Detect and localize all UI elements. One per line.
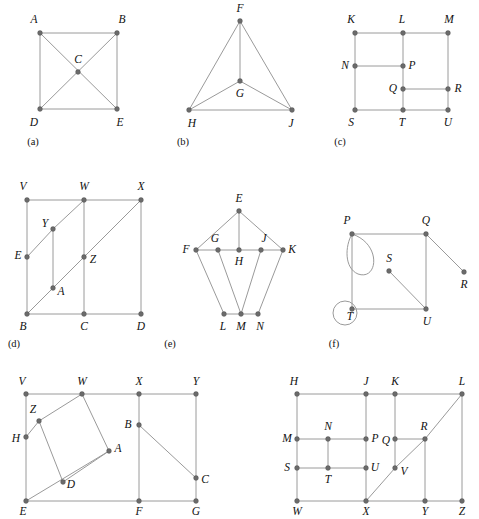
vertex-label-b: B [124, 418, 131, 430]
vertex-label-r: R [459, 278, 467, 290]
vertex-w [295, 499, 300, 504]
vertex-e [24, 499, 29, 504]
vertex-j [364, 392, 369, 397]
vertex-p [364, 437, 369, 442]
vertex-label-t: T [347, 310, 355, 322]
vertex-label-a: A [113, 442, 122, 454]
vertex-label-a: A [29, 13, 38, 25]
edge-E-K [239, 211, 283, 250]
vertex-j [290, 108, 295, 113]
vertex-n [353, 64, 358, 69]
vertex-l [460, 392, 465, 397]
vertex-label-k: K [346, 13, 356, 25]
vertex-label-e: E [13, 249, 21, 261]
vertex-v [24, 392, 29, 397]
vertex-label-k: K [287, 243, 297, 255]
vertex-v [25, 198, 30, 203]
edge-V-R [395, 439, 425, 468]
edge-Z-X [84, 200, 141, 257]
edge-Q-R [426, 234, 464, 272]
vertex-a [107, 449, 112, 454]
vertex-label-m: M [235, 320, 247, 332]
edge-Z-W [39, 394, 82, 421]
edge-F-J [240, 21, 292, 110]
vertex-label-d: D [136, 320, 146, 332]
vertex-v [393, 466, 398, 471]
vertex-label-w: W [292, 505, 303, 517]
vertex-y [194, 392, 199, 397]
vertex-label-p: P [407, 59, 415, 71]
edge-R-L [425, 394, 462, 439]
vertex-m [239, 312, 244, 317]
vertex-g [194, 499, 199, 504]
vertex-a [51, 286, 56, 291]
vertex-label-h: H [187, 117, 197, 129]
vertex-label-l: L [219, 320, 226, 332]
vertex-label-z: Z [30, 403, 37, 415]
edge-group [297, 394, 462, 501]
graph-panel-h: HJKLMNPQRSTUVWXYZ [281, 375, 466, 517]
panel-caption-e: (e) [164, 338, 176, 350]
vertex-label-t: T [325, 473, 333, 485]
vertex-label-v: V [19, 180, 28, 192]
vertex-u [446, 108, 451, 113]
vertex-w [82, 198, 87, 203]
vertex-label-f: F [235, 2, 244, 14]
vertex-d [61, 480, 66, 485]
vertex-label-k: K [390, 375, 400, 387]
vertex-label-u: U [444, 116, 453, 128]
vertex-label-j: J [261, 232, 267, 244]
graph-panel-g: VWXYZHBACDEFG [11, 375, 209, 517]
vertex-label-n: N [340, 59, 350, 71]
vertex-label-j: J [363, 375, 369, 387]
edge-S-U [389, 271, 426, 309]
vertex-b [115, 31, 120, 36]
vertex-g [238, 79, 243, 84]
vertex-k [281, 248, 286, 253]
vertex-label-y: Y [42, 217, 50, 229]
edge-G-H [189, 81, 240, 110]
vertex-q [401, 87, 406, 92]
edge-B-C [139, 425, 196, 478]
vertex-r [462, 270, 467, 275]
vertex-x [364, 499, 369, 504]
vertex-e [25, 255, 30, 260]
vertex-label-h: H [289, 375, 299, 387]
vertex-u [364, 466, 369, 471]
vertex-y [423, 499, 428, 504]
vertex-a [38, 31, 43, 36]
vertex-label-e: E [115, 116, 123, 128]
vertex-label-f: F [134, 505, 143, 517]
self-loop-T [333, 301, 357, 325]
edge-K-N [258, 250, 283, 314]
vertex-g [216, 248, 221, 253]
vertex-label-u: U [423, 315, 432, 327]
vertex-label-s: S [348, 116, 354, 128]
vertex-label-c: C [80, 320, 88, 332]
vertex-label-s: S [284, 461, 290, 473]
vertex-label-b: B [19, 320, 26, 332]
vertex-h [24, 435, 29, 440]
panel-caption-c: (c) [334, 136, 346, 148]
edge-F-H [189, 21, 240, 110]
vertex-c [82, 312, 87, 317]
vertex-k [353, 31, 358, 36]
vertex-p [350, 232, 355, 237]
vertex-f [194, 248, 199, 253]
vertex-label-z: Z [459, 505, 466, 517]
vertex-l [401, 31, 406, 36]
panel-caption-b: (b) [177, 136, 190, 148]
panel-caption-f: (f) [329, 338, 340, 350]
vertex-c [194, 476, 199, 481]
vertex-label-v: V [400, 465, 409, 477]
vertex-label-v: V [18, 375, 27, 387]
vertex-label-r: R [453, 82, 461, 94]
vertex-m [295, 437, 300, 442]
vertex-label-x: X [136, 180, 145, 192]
vertex-z [82, 255, 87, 260]
edge-F-L [196, 250, 224, 314]
edge-Y-W [53, 200, 84, 229]
vertex-c [76, 70, 81, 75]
edge-J-M [241, 250, 261, 314]
edge-X-V [366, 468, 395, 501]
